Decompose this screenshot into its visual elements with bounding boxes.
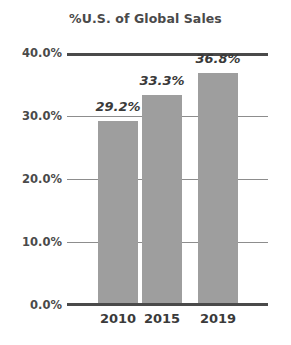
y-axis-tick-label: 40.0% xyxy=(0,46,62,60)
bar-2019 xyxy=(198,73,238,303)
x-axis-labels: 2010 2015 2019 xyxy=(67,311,268,335)
bar-2010 xyxy=(98,121,138,304)
bar-series xyxy=(67,53,268,305)
x-axis-baseline xyxy=(67,303,268,306)
plot-area: 29.2% 33.3% 36.8% xyxy=(67,53,268,305)
bar-2015 xyxy=(142,95,182,303)
chart-container: %U.S. of Global Sales 40.0% 30.0% 20.0% … xyxy=(0,0,291,345)
bar-value-label-2015: 33.3% xyxy=(127,73,197,88)
y-axis-tick-label: 30.0% xyxy=(0,109,62,123)
y-axis-labels: 40.0% 30.0% 20.0% 10.0% 0.0% xyxy=(0,0,62,345)
y-axis-tick-label: 10.0% xyxy=(0,235,62,249)
bar-value-label-2019: 36.8% xyxy=(183,51,253,66)
y-axis-tick-label: 20.0% xyxy=(0,172,62,186)
x-axis-tick-label-2019: 2019 xyxy=(188,311,248,326)
y-axis-tick-label: 0.0% xyxy=(0,298,62,312)
bar-value-label-2010: 29.2% xyxy=(83,99,153,114)
x-axis-tick-label-2015: 2015 xyxy=(132,311,192,326)
